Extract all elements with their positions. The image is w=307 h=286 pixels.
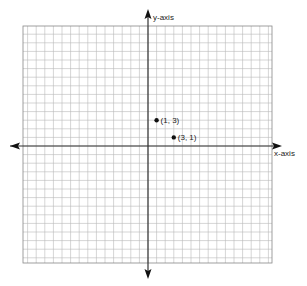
x-axis-label: x-axis [274,149,295,158]
coordinate-plane: x-axis y-axis (1, 3)(3, 1) [0,0,307,286]
data-point: (1, 3) [154,116,179,125]
point-marker [172,135,176,139]
point-label: (3, 1) [178,133,197,142]
data-point: (3, 1) [172,133,197,142]
axes: x-axis y-axis [10,9,295,279]
point-marker [154,118,158,122]
point-label: (1, 3) [161,116,180,125]
y-axis-label: y-axis [153,13,174,22]
